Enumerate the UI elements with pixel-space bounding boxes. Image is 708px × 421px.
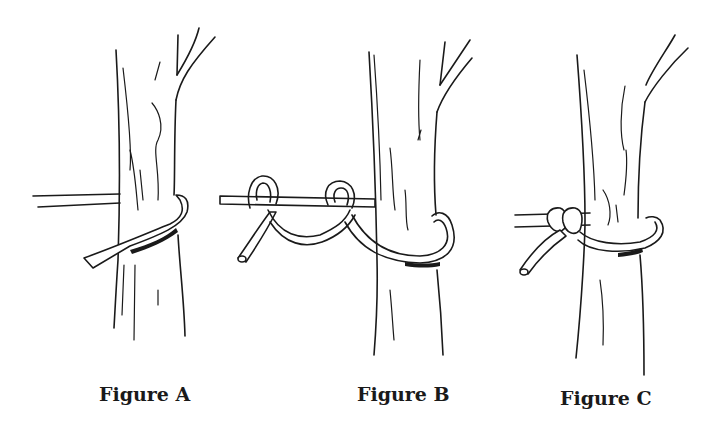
- figure-a-caption: Figure A: [99, 383, 190, 405]
- tree-trunk-icon: [369, 40, 472, 355]
- tree-trunk-icon: [576, 35, 688, 375]
- illustration-svg: [0, 0, 708, 421]
- tree-trunk-icon: [114, 28, 215, 340]
- figure-b-drawing: [220, 40, 472, 355]
- figure-b-caption: Figure B: [357, 383, 450, 405]
- rope-icon: [220, 176, 454, 268]
- rope-icon: [33, 194, 188, 268]
- knot-illustration: Figure A Figure B Figure C: [0, 0, 708, 421]
- figure-c-drawing: [515, 35, 688, 375]
- figure-c-caption: Figure C: [560, 387, 652, 409]
- figure-a-drawing: [33, 28, 215, 340]
